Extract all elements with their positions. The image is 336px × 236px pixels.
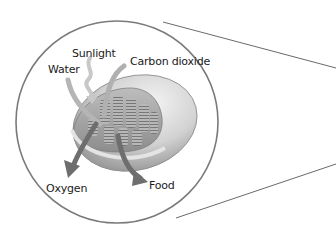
label-water: Water [48,63,80,76]
label-carbon-dioxide: Carbon dioxide [130,55,210,68]
chloroplast-diagram [0,0,336,236]
label-sunlight: Sunlight [72,47,116,60]
label-oxygen: Oxygen [46,182,87,195]
label-food: Food [149,179,175,192]
